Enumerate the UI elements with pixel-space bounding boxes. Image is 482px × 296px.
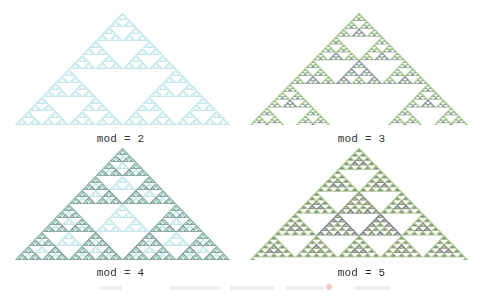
panel-label: mod = 5 (241, 267, 482, 279)
panel-label: mod = 4 (0, 267, 241, 279)
caption-text-faded (355, 286, 390, 290)
pascal-triangle-mod-5 (250, 148, 468, 260)
caption-marker-icon (326, 284, 332, 290)
caption-text-faded (170, 286, 220, 290)
panel-mod-5: mod = 5 (241, 0, 482, 296)
caption-text-faded (230, 286, 275, 290)
caption-text-faded (285, 286, 325, 290)
caption-text-faded (100, 286, 122, 290)
pascal-triangle-mod-4 (15, 148, 230, 260)
figure-caption (100, 284, 390, 292)
panel-mod-4: mod = 4 (0, 0, 241, 296)
